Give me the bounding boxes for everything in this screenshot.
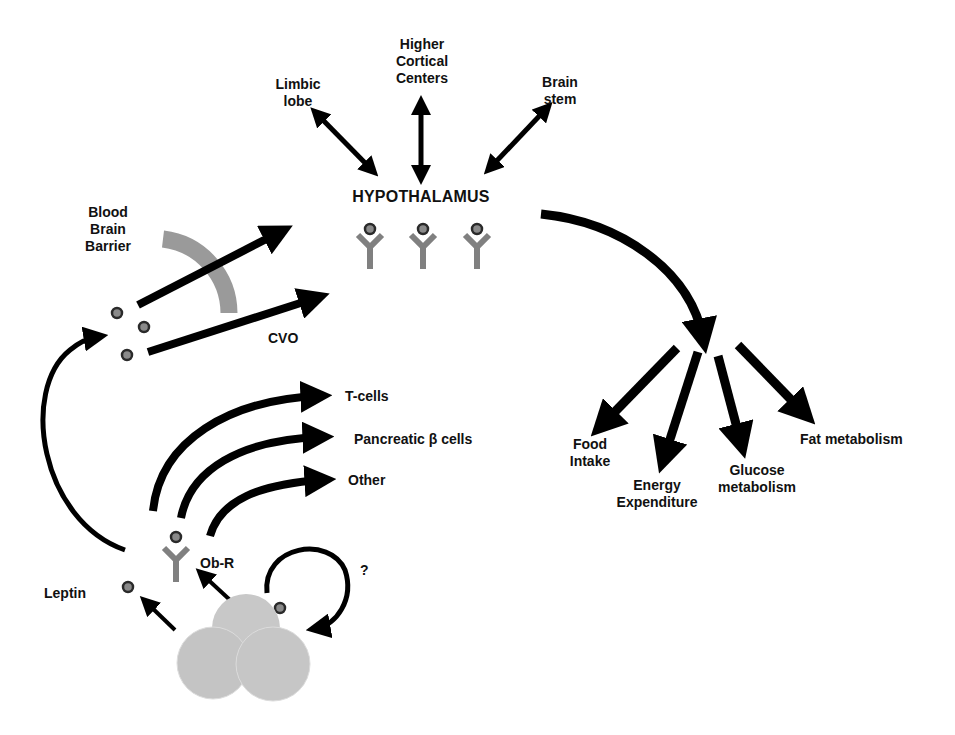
- food-intake-label: Food Intake: [560, 436, 620, 470]
- bbb-line1: Blood: [76, 204, 140, 221]
- pancreatic-beta-cells-label: Pancreatic β cells: [354, 431, 472, 448]
- brainstem-line1: Brain: [530, 74, 590, 91]
- blood-brain-barrier-label: Blood Brain Barrier: [76, 204, 140, 255]
- leptin-signaling-diagram: Limbic lobe Higher Cortical Centers Brai…: [0, 0, 955, 735]
- autocrine-question-label: ?: [360, 562, 369, 579]
- brain-stem-label: Brain stem: [530, 74, 590, 108]
- glucose-metabolism-label: Glucose metabolism: [712, 462, 802, 496]
- hypothalamus-output-arrow: [541, 214, 703, 338]
- limbic-lobe-label: Limbic lobe: [260, 76, 336, 110]
- t-cells-label: T-cells: [345, 388, 389, 405]
- autocrine-loop-arrow: [267, 549, 348, 628]
- limbic-arrow: [318, 115, 372, 170]
- fat-metabolism-arrow: [738, 345, 804, 413]
- glucose-line1: Glucose: [712, 462, 802, 479]
- adipocyte-cluster: [177, 594, 310, 701]
- limbic-line2: lobe: [260, 93, 336, 110]
- circulating-leptin: [112, 308, 149, 360]
- cvo-label: CVO: [268, 330, 298, 347]
- food-intake-arrow: [602, 348, 677, 425]
- cortical-line3: Centers: [380, 70, 464, 87]
- circulation-loop-arrow: [43, 337, 125, 550]
- cortical-line1: Higher: [380, 36, 464, 53]
- energy-expenditure-label: Energy Expenditure: [612, 477, 702, 511]
- higher-cortical-centers-label: Higher Cortical Centers: [380, 36, 464, 87]
- brainstem-line2: stem: [530, 91, 590, 108]
- energy-line2: Expenditure: [612, 494, 702, 511]
- energy-expenditure-arrow: [664, 352, 698, 458]
- hypothalamus-label: HYPOTHALAMUS: [336, 188, 506, 205]
- secretion-arrow-receptor: [203, 575, 230, 600]
- ob-r-receptor: [164, 532, 188, 582]
- food-line2: Intake: [560, 453, 620, 470]
- food-line1: Food: [560, 436, 620, 453]
- bbb-transport-arrow: [138, 232, 280, 305]
- cortical-line2: Cortical: [380, 53, 464, 70]
- diagram-canvas: [0, 0, 955, 735]
- leptin-molecule: [123, 582, 133, 592]
- other-arrow: [210, 480, 322, 536]
- other-label: Other: [348, 472, 385, 489]
- secretion-arrow-leptin: [147, 603, 175, 630]
- brainstem-arrow: [490, 110, 545, 168]
- pancreatic-arrow: [181, 437, 320, 518]
- limbic-line1: Limbic: [260, 76, 336, 93]
- leptin-label: Leptin: [44, 585, 86, 602]
- ob-r-label: Ob-R: [200, 555, 234, 572]
- autocrine-leptin: [275, 603, 285, 613]
- bbb-line2: Brain: [76, 221, 140, 238]
- fat-metabolism-label: Fat metabolism: [800, 431, 903, 448]
- glucose-line2: metabolism: [712, 479, 802, 496]
- glucose-metabolism-arrow: [718, 356, 741, 443]
- hypothalamic-receptors: [358, 224, 489, 269]
- energy-line1: Energy: [612, 477, 702, 494]
- bbb-line3: Barrier: [76, 238, 140, 255]
